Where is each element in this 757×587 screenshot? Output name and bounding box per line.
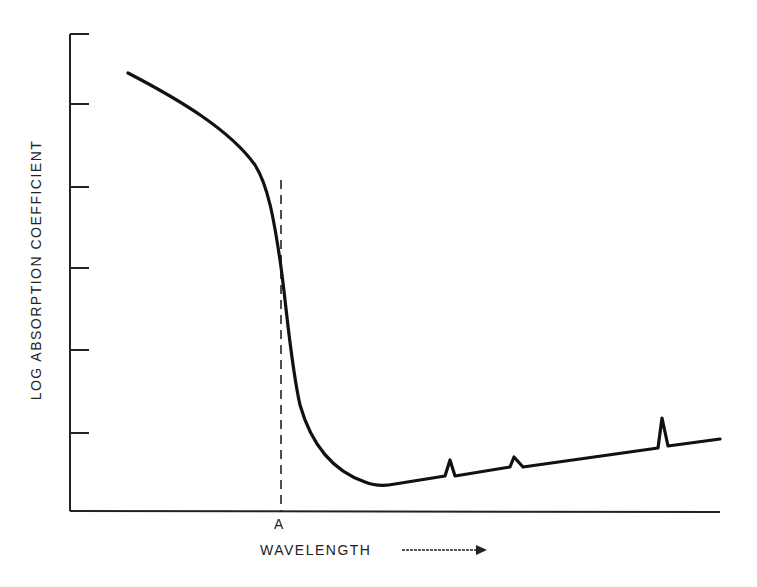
x-axis-label: WAVELENGTH	[260, 542, 371, 558]
y-axis-label: LOG ABSORPTION COEFFICIENT	[28, 140, 44, 401]
x-axis-arrow-icon	[402, 545, 487, 555]
absorption-curve	[128, 73, 720, 485]
x-axis	[70, 511, 720, 512]
marker-a-label: A	[274, 516, 283, 532]
axes	[70, 34, 720, 512]
absorption-chart	[0, 0, 757, 587]
